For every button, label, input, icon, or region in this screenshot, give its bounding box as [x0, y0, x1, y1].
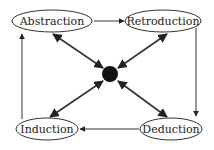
node-deduction: Deduction	[140, 118, 202, 140]
spoke-hub-abstraction	[53, 34, 103, 68]
spoke-hub-induction	[50, 81, 103, 117]
node-retroduction: Retroduction	[125, 10, 201, 32]
node-abstraction: Abstraction	[12, 10, 92, 32]
spoke-hub-deduction	[118, 81, 167, 117]
node-label: Induction	[20, 123, 73, 136]
node-induction: Induction	[16, 118, 78, 140]
hub-node	[102, 66, 118, 82]
node-label: Abstraction	[19, 15, 85, 28]
node-label: Deduction	[142, 123, 199, 136]
node-label: Retroduction	[126, 15, 199, 28]
spoke-hub-retroduction	[118, 34, 167, 68]
research-cycle-diagram: Abstraction Retroduction Induction Deduc…	[0, 0, 214, 150]
